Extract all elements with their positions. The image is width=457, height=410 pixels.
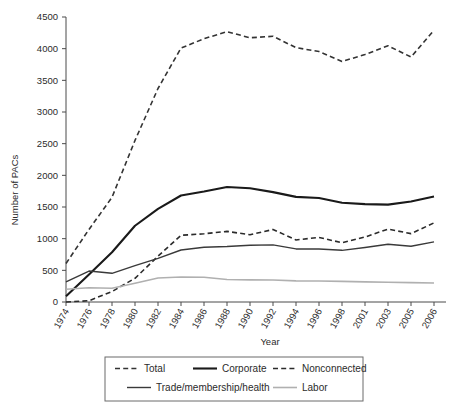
x-axis-tick-label: 1978 bbox=[97, 307, 117, 331]
y-axis-tick-label: 1500 bbox=[37, 201, 58, 212]
x-axis-tick-label: 1986 bbox=[189, 307, 209, 331]
legend-label-nonconnected[interactable]: Nonconnected bbox=[302, 363, 367, 374]
x-axis-tick-label: 1984 bbox=[166, 307, 186, 331]
x-axis-tick-label: 2005 bbox=[396, 307, 416, 331]
legend-label-total[interactable]: Total bbox=[144, 363, 165, 374]
x-axis-tick-label: 1994 bbox=[281, 307, 301, 331]
series-line-labor bbox=[66, 277, 434, 289]
data-series-group bbox=[66, 30, 434, 302]
x-axis-tick-label: 2006 bbox=[419, 307, 439, 331]
x-axis-tick-label: 2003 bbox=[373, 307, 393, 331]
x-axis-tick-label: 2001 bbox=[350, 307, 370, 331]
x-axis-tick-label: 1998 bbox=[327, 307, 347, 331]
y-axis-tick-label: 3500 bbox=[37, 75, 58, 86]
y-axis-tick-label: 3000 bbox=[37, 106, 58, 117]
y-axis-tick-label: 2000 bbox=[37, 170, 58, 181]
y-axis-tick-label: 500 bbox=[42, 265, 58, 276]
legend-label-labor[interactable]: Labor bbox=[302, 382, 328, 393]
y-axis-tick-label: 4500 bbox=[37, 11, 58, 22]
y-axis-tick-label: 2500 bbox=[37, 138, 58, 149]
x-axis-tick-label: 1980 bbox=[120, 307, 140, 331]
y-axis-tick-label: 0 bbox=[53, 296, 58, 307]
legend-label-corporate[interactable]: Corporate bbox=[222, 363, 267, 374]
x-axis-title: Year bbox=[260, 336, 279, 347]
y-axis-tick-label: 4000 bbox=[37, 43, 58, 54]
series-line-nonconnected bbox=[66, 223, 434, 302]
chart-canvas: Number of PACs Year 05001000150020002500… bbox=[0, 0, 457, 410]
x-axis: 1974197619781980198219841986198819901992… bbox=[51, 302, 446, 330]
chart-legend: TotalCorporateNonconnectedTrade/membersh… bbox=[105, 357, 367, 401]
legend-label-trade-membership-health[interactable]: Trade/membership/health bbox=[156, 382, 270, 393]
y-axis: 050010001500200025003000350040004500 bbox=[37, 11, 66, 307]
y-axis-title: Number of PACs bbox=[9, 154, 20, 225]
series-line-trade-membership-health bbox=[66, 242, 434, 282]
x-axis-tick-label: 1982 bbox=[143, 307, 163, 331]
series-line-total bbox=[66, 30, 434, 263]
x-axis-tick-label: 1976 bbox=[74, 307, 94, 331]
pac-count-line-chart: Number of PACs Year 05001000150020002500… bbox=[0, 0, 457, 410]
x-axis-tick-label: 1988 bbox=[212, 307, 232, 331]
x-axis-tick-label: 1974 bbox=[51, 307, 71, 331]
y-axis-tick-label: 1000 bbox=[37, 233, 58, 244]
x-axis-tick-label: 1990 bbox=[235, 307, 255, 331]
x-axis-tick-label: 1992 bbox=[258, 307, 278, 331]
x-axis-tick-label: 1996 bbox=[304, 307, 324, 331]
